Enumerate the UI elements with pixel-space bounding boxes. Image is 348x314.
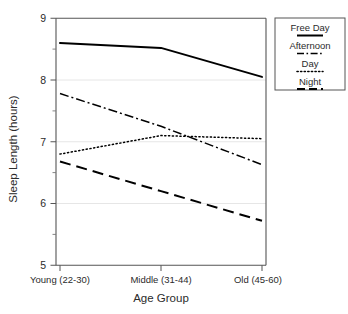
legend-label-night: Night (299, 76, 322, 87)
x-category-label-middle: Middle (31-44) (130, 274, 191, 285)
legend-label-afternoon: Afternoon (289, 40, 330, 51)
chart-figure: 9 8 7 6 5 Young (22-30) Middle (31-44) O… (0, 0, 348, 314)
legend-label-day: Day (302, 58, 319, 69)
chart-legend[interactable]: Free Day Afternoon Day Night (275, 18, 345, 90)
line-chart: 9 8 7 6 5 Young (22-30) Middle (31-44) O… (0, 0, 348, 314)
y-tick-label-9: 9 (40, 12, 46, 24)
y-tick-label-7: 7 (40, 136, 46, 148)
y-tick-label-5: 5 (40, 259, 46, 271)
x-category-label-young: Young (22-30) (30, 274, 90, 285)
x-axis-title: Age Group (133, 292, 189, 304)
x-category-label-old: Old (45-60) (234, 274, 282, 285)
y-tick-label-8: 8 (40, 74, 46, 86)
legend-label-free-day: Free Day (290, 22, 329, 33)
y-tick-label-6: 6 (40, 197, 46, 209)
y-axis-title: Sleep Length (hours) (7, 95, 19, 203)
